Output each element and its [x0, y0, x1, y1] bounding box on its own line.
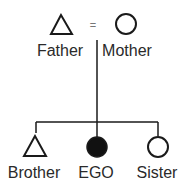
ego-circle-icon: [87, 137, 107, 157]
father-label: Father: [37, 42, 84, 59]
brother-triangle-icon: [24, 136, 46, 156]
mother-label: Mother: [102, 42, 152, 59]
marriage-symbol: =: [90, 19, 96, 31]
kinship-diagram: = Father Mother Brother EGO Sister: [0, 0, 182, 184]
sister-circle-icon: [148, 137, 168, 157]
brother-label: Brother: [8, 164, 61, 181]
father-triangle-icon: [51, 15, 72, 34]
ego-label: EGO: [78, 164, 114, 181]
sister-label: Sister: [137, 164, 179, 181]
mother-circle-icon: [116, 14, 136, 34]
